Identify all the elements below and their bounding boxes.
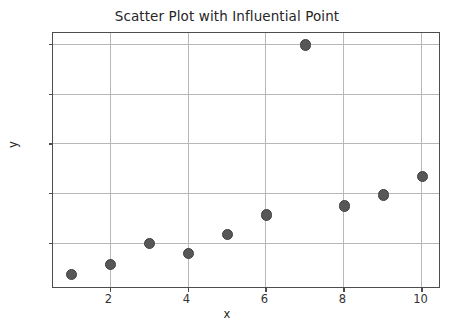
x-axis-tick-label: 2 [89,292,129,306]
grid-line-horizontal [53,94,439,95]
scatter-point [378,189,389,200]
scatter-point [339,200,350,211]
x-axis-tick-label: 6 [244,292,284,306]
plot-inner [53,33,439,287]
scatter-point [183,248,194,259]
scatter-point [417,171,428,182]
grid-line-horizontal [53,243,439,244]
x-axis-tick [343,287,344,292]
x-axis-label: x [0,307,454,321]
grid-line-vertical [343,33,344,287]
grid-line-vertical [421,33,422,287]
x-axis-tick-label: 10 [400,292,440,306]
y-axis-tick [49,143,54,144]
x-axis-tick-label: 8 [322,292,362,306]
y-axis-label: y [6,141,20,148]
chart-title: Scatter Plot with Influential Point [0,8,454,24]
y-axis-tick [49,44,54,45]
x-axis-tick [188,287,189,292]
chart-figure: Scatter Plot with Influential Point x y … [0,0,454,325]
scatter-point [222,229,233,240]
plot-area [52,32,440,288]
x-axis-tick-label: 4 [167,292,207,306]
grid-line-vertical [265,33,266,287]
x-axis-tick [421,287,422,292]
grid-line-horizontal [53,143,439,144]
scatter-point [105,259,116,270]
y-axis-tick [49,94,54,95]
grid-line-vertical [110,33,111,287]
y-axis-tick [49,243,54,244]
grid-line-horizontal [53,44,439,45]
scatter-point [261,209,272,220]
scatter-point [66,269,77,280]
y-axis-tick [49,193,54,194]
x-axis-tick [110,287,111,292]
scatter-point [300,39,311,50]
x-axis-tick [265,287,266,292]
scatter-point [144,238,155,249]
